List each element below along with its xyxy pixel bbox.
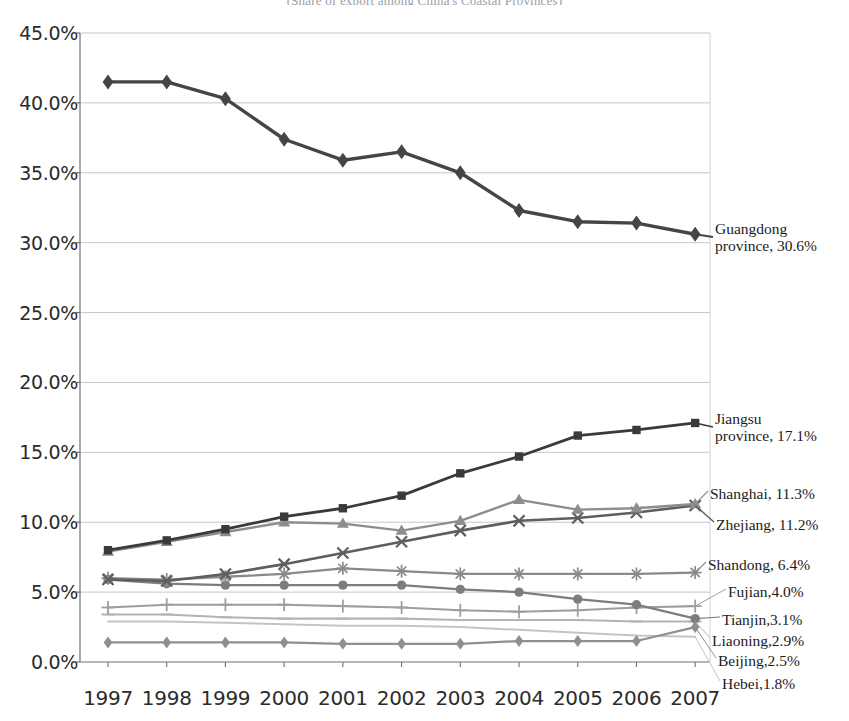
callout-line-1: Shanghai, 11.3% — [710, 485, 815, 502]
x-axis-tick-label: 1998 — [142, 686, 192, 710]
callout-line-1: Beijing,2.5% — [718, 652, 800, 669]
callout-leader-zhejiang — [695, 505, 714, 522]
data-point-square — [574, 431, 582, 439]
data-point-circle — [456, 585, 465, 594]
data-point-diamond — [514, 203, 525, 218]
data-point-square — [163, 536, 171, 544]
data-point-circle — [338, 580, 347, 589]
data-point-circle — [397, 580, 406, 589]
data-point-diamond — [104, 636, 113, 648]
series-callout-label-zhejiang: Zhejiang, 11.2% — [716, 516, 818, 533]
x-axis-tick-label: 2000 — [259, 686, 309, 710]
data-point-diamond — [339, 638, 348, 650]
callout-line-1: Guangdong — [715, 220, 787, 237]
data-point-square — [397, 491, 405, 499]
data-point-square — [339, 504, 347, 512]
data-point-square — [632, 426, 640, 434]
series-liaoning — [102, 614, 702, 621]
callout-line-1: Liaoning,2.9% — [712, 632, 804, 649]
data-point-diamond — [280, 636, 289, 648]
data-point-diamond — [397, 638, 406, 650]
data-point-diamond — [162, 636, 171, 648]
x-axis-tick-label: 2005 — [553, 686, 603, 710]
data-point-diamond — [456, 638, 465, 650]
data-point-square — [456, 469, 464, 477]
series-callout-label-shanghai: Shanghai, 11.3% — [710, 485, 815, 502]
x-axis-tick-label: 2004 — [494, 686, 544, 710]
data-point-diamond — [161, 74, 172, 89]
data-point-circle — [573, 594, 582, 603]
data-point-circle — [279, 580, 288, 589]
data-point-triangle — [513, 494, 525, 504]
callout-leader-fujian — [695, 589, 726, 606]
x-axis-tick-label: 1999 — [201, 686, 251, 710]
callout-line-1: Shandong, 6.4% — [708, 556, 810, 573]
series-callout-label-liaoning: Liaoning,2.9% — [712, 632, 804, 649]
callout-line-1: Jiangsu — [715, 410, 762, 427]
callout-line-1: Tianjin,3.1% — [722, 611, 802, 628]
series-callout-label-hebei: Hebei,1.8% — [722, 675, 795, 692]
data-point-diamond — [221, 636, 230, 648]
chart-container: (Share of export among China's Coastal P… — [0, 0, 849, 721]
x-axis-tick-label: 2006 — [612, 686, 662, 710]
data-point-diamond — [572, 214, 583, 229]
callout-line-2: province, 30.6% — [715, 237, 817, 254]
data-point-diamond — [220, 91, 231, 106]
series-hebei — [108, 621, 695, 636]
data-point-diamond — [455, 165, 466, 180]
x-axis-tick-label: 2001 — [318, 686, 368, 710]
data-point-square — [515, 452, 523, 460]
series-callout-label-beijing: Beijing,2.5% — [718, 652, 800, 669]
data-point-diamond — [631, 216, 642, 231]
data-point-circle — [632, 600, 641, 609]
data-point-square — [280, 512, 288, 520]
data-point-diamond — [573, 635, 582, 647]
data-point-circle — [514, 587, 523, 596]
data-point-diamond — [632, 635, 641, 647]
data-point-diamond — [337, 153, 348, 168]
callout-line-1: Hebei,1.8% — [722, 675, 795, 692]
x-axis-tick-label: 1997 — [83, 686, 133, 710]
callout-leader-shandong — [695, 562, 706, 573]
series-callout-label-jiangsu: Jiangsuprovince, 17.1% — [715, 410, 817, 444]
data-point-square — [104, 546, 112, 554]
callout-line-1: Zhejiang, 11.2% — [716, 516, 818, 533]
data-point-diamond — [515, 635, 524, 647]
series-callout-label-shandong: Shandong, 6.4% — [708, 556, 810, 573]
x-axis-tick-label: 2007 — [670, 686, 720, 710]
callout-leader-shanghai — [695, 491, 708, 504]
series-line-hebei — [108, 621, 695, 636]
series-callout-label-guangdong: Guangdongprovince, 30.6% — [715, 220, 817, 254]
series-shanghai — [102, 494, 701, 556]
data-point-diamond — [396, 144, 407, 159]
callout-line-1: Fujian,4.0% — [728, 583, 804, 600]
data-point-diamond — [103, 74, 114, 89]
x-axis-tick-label: 2002 — [377, 686, 427, 710]
callout-line-2: province, 17.1% — [715, 427, 817, 444]
x-axis-tick-label: 2003 — [435, 686, 485, 710]
series-guangdong — [103, 74, 701, 241]
series-callout-label-tianjin: Tianjin,3.1% — [722, 611, 802, 628]
data-point-square — [221, 525, 229, 533]
series-callout-label-fujian: Fujian,4.0% — [728, 583, 804, 600]
data-point-diamond — [279, 132, 290, 147]
